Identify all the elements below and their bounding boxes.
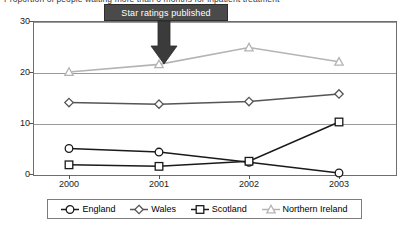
legend-item-wales[interactable]: Wales — [130, 204, 176, 215]
square-icon — [191, 204, 209, 215]
circle-icon — [61, 204, 79, 215]
legend-label-wales: Wales — [151, 204, 176, 214]
legend-item-northern-ireland[interactable]: Northern Ireland — [262, 204, 348, 215]
legend-item-england[interactable]: England — [61, 204, 115, 215]
legend-label-northern-ireland: Northern Ireland — [283, 204, 348, 214]
diamond-icon — [130, 204, 148, 215]
line-chart: Proportion of people waiting more than 6… — [0, 0, 404, 226]
legend-item-scotland[interactable]: Scotland — [191, 204, 247, 215]
legend-label-scotland: Scotland — [212, 204, 247, 214]
annotation-arrow-icon — [0, 0, 404, 226]
legend-label-england: England — [82, 204, 115, 214]
legend: England Wales Scotland Northern Ireland — [47, 199, 362, 219]
triangle-icon — [262, 204, 280, 215]
